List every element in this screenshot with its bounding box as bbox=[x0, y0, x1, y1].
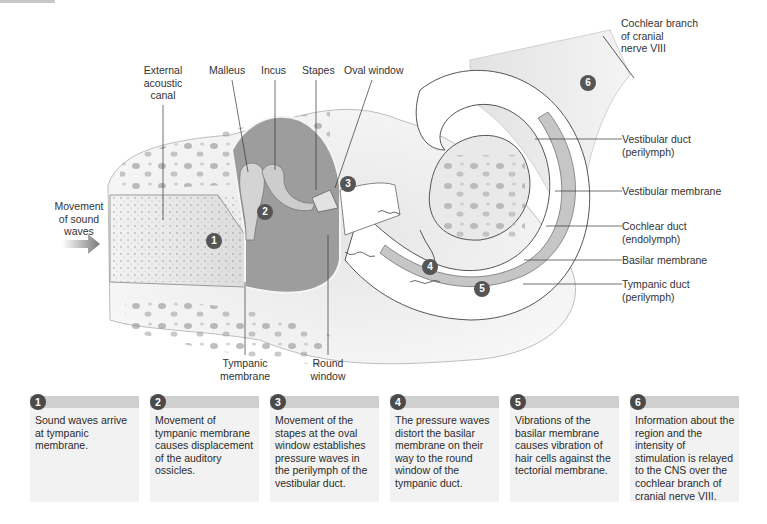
label-tympanic-duct: Tympanic duct (perilymph) bbox=[622, 278, 690, 303]
sound-wave-dots bbox=[112, 197, 242, 282]
step-text: Movement of tympanic membrane causes dis… bbox=[150, 408, 259, 477]
step-box-5: 5 Vibrations of the basilar membrane cau… bbox=[510, 396, 619, 502]
marker-3: 3 bbox=[340, 176, 356, 192]
step-box-4: 4 The pressure waves distort the basilar… bbox=[390, 396, 499, 502]
step-header: 1 bbox=[30, 396, 139, 408]
step-header: 4 bbox=[390, 396, 499, 408]
step-header: 5 bbox=[510, 396, 619, 408]
step-box-6: 6 Information about the region and the i… bbox=[630, 396, 739, 502]
step-text: The pressure waves distort the basilar m… bbox=[390, 408, 499, 490]
step-text: Sound waves arrive at tympanic membrane. bbox=[30, 408, 139, 452]
step-text: Vibrations of the basilar membrane cause… bbox=[510, 408, 619, 477]
marker-5: 5 bbox=[474, 281, 490, 297]
step-header: 3 bbox=[270, 396, 379, 408]
step-number-badge: 3 bbox=[270, 394, 286, 410]
label-basilar-membrane: Basilar membrane bbox=[622, 254, 707, 267]
modiolus-pores bbox=[440, 155, 525, 238]
label-cochlear-branch: Cochlear branch of cranial nerve VIII bbox=[621, 17, 698, 55]
label-malleus: Malleus bbox=[209, 64, 245, 77]
step-header: 6 bbox=[630, 396, 739, 408]
step-box-3: 3 Movement of the stapes at the oval win… bbox=[270, 396, 379, 502]
label-stapes: Stapes bbox=[302, 64, 335, 77]
label-tympanic-membrane: Tympanic membrane bbox=[216, 357, 274, 382]
step-header: 2 bbox=[150, 396, 259, 408]
step-number-badge: 1 bbox=[30, 394, 46, 410]
step-box-2: 2 Movement of tympanic membrane causes d… bbox=[150, 396, 259, 502]
marker-6: 6 bbox=[580, 75, 596, 91]
step-box-1: 1 Sound waves arrive at tympanic membran… bbox=[30, 396, 139, 502]
step-number-badge: 2 bbox=[150, 394, 166, 410]
label-vestibular-duct: Vestibular duct (perilymph) bbox=[622, 133, 691, 158]
marker-1: 1 bbox=[206, 233, 222, 249]
step-number-badge: 6 bbox=[630, 394, 646, 410]
marker-4: 4 bbox=[422, 259, 438, 275]
label-external-acoustic-canal: External acoustic canal bbox=[137, 64, 189, 102]
label-incus: Incus bbox=[261, 64, 286, 77]
label-oval-window: Oval window bbox=[344, 64, 404, 77]
step-text: Information about the region and the int… bbox=[630, 408, 739, 502]
label-cochlear-duct: Cochlear duct (endolymph) bbox=[622, 220, 687, 245]
label-round-window: Round window bbox=[308, 357, 348, 382]
marker-2: 2 bbox=[257, 204, 273, 220]
step-number-badge: 5 bbox=[510, 394, 526, 410]
label-movement-of-sound-waves: Movement of sound waves bbox=[54, 200, 104, 238]
step-number-badge: 4 bbox=[390, 394, 406, 410]
ear-diagram: External acoustic canal Malleus Incus St… bbox=[0, 0, 767, 524]
step-text: Movement of the stapes at the oval windo… bbox=[270, 408, 379, 490]
label-vestibular-membrane: Vestibular membrane bbox=[622, 185, 721, 198]
